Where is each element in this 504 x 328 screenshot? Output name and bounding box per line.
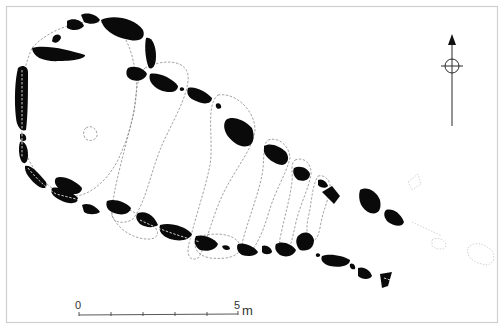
stone	[101, 17, 144, 40]
stone	[316, 253, 320, 257]
stone	[82, 204, 100, 214]
stone	[25, 166, 47, 188]
stone	[81, 14, 100, 24]
scale-start-label: 0	[75, 299, 81, 311]
faint-stone-positions	[408, 174, 494, 265]
faint-stone	[432, 238, 446, 249]
stone	[145, 38, 156, 69]
scale-bar: 0 5 m	[75, 299, 253, 318]
stone	[19, 142, 28, 164]
north-arrow-icon	[441, 34, 463, 126]
stone	[384, 210, 404, 226]
faint-stone	[408, 174, 421, 190]
stone	[15, 66, 28, 131]
stone	[224, 118, 253, 146]
stone	[159, 224, 192, 240]
stone	[321, 255, 350, 267]
faint-stone	[468, 244, 494, 265]
stone	[275, 242, 296, 256]
stone	[180, 87, 184, 91]
stones	[15, 14, 404, 288]
scale-bar-line	[79, 314, 238, 315]
stone	[187, 88, 212, 104]
stone	[52, 34, 61, 42]
stone	[350, 263, 355, 269]
small-ring-outline	[84, 127, 98, 141]
stone	[136, 212, 158, 227]
stone	[67, 19, 84, 30]
stone	[216, 103, 221, 108]
scale-end-label: 5	[234, 299, 240, 311]
stone	[380, 272, 392, 288]
stone	[20, 133, 26, 141]
stone	[359, 188, 380, 213]
stone	[262, 245, 272, 254]
stone	[358, 267, 372, 279]
stone	[264, 144, 288, 165]
faint-stone	[412, 222, 442, 236]
stone	[318, 179, 328, 187]
stone	[296, 233, 314, 251]
stone	[149, 74, 178, 92]
stone	[195, 235, 218, 250]
stone	[237, 243, 258, 256]
site-plan: 0 5 m	[0, 0, 504, 328]
stone	[32, 47, 85, 61]
scale-unit-label: m	[242, 303, 253, 318]
stone	[222, 245, 230, 250]
stone	[106, 200, 131, 214]
stone	[293, 167, 310, 181]
stone	[322, 186, 340, 204]
